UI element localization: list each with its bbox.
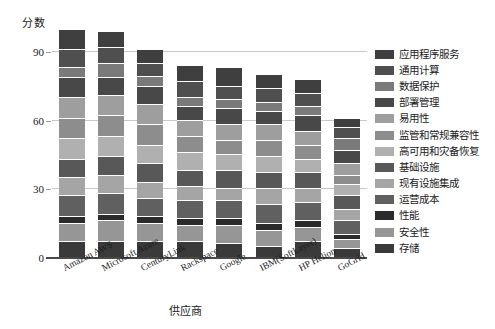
- bar[interactable]: [295, 80, 321, 258]
- bar-segment: [295, 173, 321, 189]
- legend-swatch: [375, 66, 394, 75]
- bar-segment: [334, 119, 360, 128]
- bar-segment: [98, 32, 124, 48]
- bar-segment: [98, 157, 124, 175]
- bar-segment: [98, 137, 124, 158]
- bar-segment: [137, 199, 163, 217]
- legend-swatch: [375, 211, 394, 220]
- bar-segment: [59, 178, 85, 196]
- bar-segment: [216, 155, 242, 171]
- bar-segment: [98, 64, 124, 78]
- bar[interactable]: [216, 68, 242, 258]
- bar-segment: [177, 137, 203, 153]
- legend-label: 易用性: [399, 113, 429, 124]
- legend-item[interactable]: 现有设施集成: [375, 176, 493, 192]
- legend-swatch: [375, 82, 394, 91]
- bar-segment: [256, 231, 282, 247]
- bar-segment: [177, 219, 203, 226]
- plot-area: [52, 18, 367, 258]
- bar-segment: [98, 96, 124, 117]
- legend-label: 数据保护: [399, 81, 439, 92]
- legend-item[interactable]: 应用程序服务: [375, 46, 493, 62]
- bar-segment: [295, 203, 321, 221]
- legend-item[interactable]: 监管和常规兼容性: [375, 127, 493, 143]
- bar-segment: [216, 125, 242, 141]
- bar-segment: [98, 78, 124, 96]
- legend-label: 监管和常规兼容性: [399, 130, 479, 141]
- legend-item[interactable]: 存储: [375, 240, 493, 256]
- legend-label: 基础设施: [399, 162, 439, 173]
- bar-segment: [98, 48, 124, 64]
- bar[interactable]: [98, 32, 124, 258]
- legend-swatch: [375, 50, 394, 59]
- bar-segment: [216, 219, 242, 226]
- bar-segment: [177, 201, 203, 219]
- bar-segment: [98, 194, 124, 215]
- bar[interactable]: [177, 66, 203, 258]
- legend-label: 性能: [399, 210, 419, 221]
- legend-label: 部署管理: [399, 97, 439, 108]
- bar-segment: [256, 141, 282, 157]
- bar-segment: [177, 98, 203, 107]
- bar-segment: [295, 132, 321, 146]
- bar[interactable]: [137, 50, 163, 258]
- bar-segment: [334, 221, 360, 235]
- legend-item[interactable]: 数据保护: [375, 78, 493, 94]
- bar[interactable]: [256, 75, 282, 258]
- y-tick-mark: [46, 52, 51, 53]
- legend-item[interactable]: 通用计算: [375, 62, 493, 78]
- legend-swatch: [375, 114, 394, 123]
- bar-segment: [137, 183, 163, 199]
- bar-segment: [98, 116, 124, 137]
- legend-item[interactable]: 基础设施: [375, 159, 493, 175]
- bar[interactable]: [59, 30, 85, 258]
- bar-segment: [256, 173, 282, 189]
- legend-swatch: [375, 131, 394, 140]
- bar-segment: [295, 160, 321, 174]
- bar-segment: [295, 189, 321, 203]
- bar-segment: [256, 125, 282, 141]
- bar-segment: [59, 30, 85, 51]
- bar-segment: [59, 139, 85, 160]
- bar-segment: [137, 164, 163, 182]
- legend-item[interactable]: 运营成本: [375, 192, 493, 208]
- bar-segment: [334, 164, 360, 175]
- legend: 应用程序服务通用计算数据保护部署管理易用性监管和常规兼容性高可用和灾备恢复基础设…: [375, 46, 493, 256]
- y-tick-label: 30: [18, 184, 44, 195]
- bar-segment: [137, 125, 163, 146]
- legend-swatch: [375, 98, 394, 107]
- bar-segment: [177, 82, 203, 98]
- bar-segment: [98, 221, 124, 242]
- bar-segment: [216, 87, 242, 101]
- legend-item[interactable]: 性能: [375, 208, 493, 224]
- bar-segment: [98, 215, 124, 222]
- legend-swatch: [375, 228, 394, 237]
- stacked-bar-chart: 分数 0306090 Amazon AWSMicrosoft AzureCent…: [0, 0, 495, 329]
- legend-swatch: [375, 195, 394, 204]
- bar-segment: [59, 68, 85, 77]
- y-tick-label: 60: [18, 116, 44, 127]
- bar-segment: [334, 210, 360, 221]
- legend-item[interactable]: 安全性: [375, 224, 493, 240]
- bar-segment: [256, 224, 282, 231]
- legend-label: 存储: [399, 243, 419, 254]
- bar-segment: [59, 196, 85, 217]
- bar-segment: [295, 221, 321, 228]
- bar-segment: [216, 189, 242, 200]
- legend-label: 安全性: [399, 227, 429, 238]
- bar-segment: [295, 107, 321, 116]
- bar-segment: [216, 68, 242, 86]
- legend-label: 运营成本: [399, 194, 439, 205]
- legend-item[interactable]: 高可用和灾备恢复: [375, 143, 493, 159]
- bar-segment: [137, 87, 163, 105]
- bar-segment: [137, 146, 163, 164]
- bar[interactable]: [334, 119, 360, 258]
- bar-segment: [59, 78, 85, 99]
- legend-item[interactable]: 部署管理: [375, 95, 493, 111]
- bar-segment: [295, 146, 321, 160]
- legend-label: 现有设施集成: [399, 178, 459, 189]
- bar-segment: [177, 226, 203, 242]
- y-tick-label: 90: [18, 47, 44, 58]
- bar-segment: [295, 80, 321, 94]
- legend-item[interactable]: 易用性: [375, 111, 493, 127]
